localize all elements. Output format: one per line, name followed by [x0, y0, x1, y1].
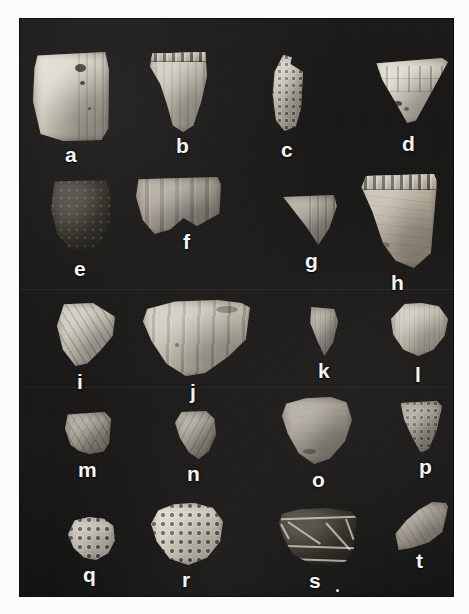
photo-plate: a b c d e [20, 19, 453, 596]
sherd-label-c: c [281, 139, 293, 160]
sherd-o [282, 397, 352, 464]
sherd-p [398, 401, 442, 453]
sherd-label-j: j [190, 381, 196, 402]
sherd-e [51, 180, 111, 252]
sherd-label-s: s [309, 570, 321, 591]
sherd-label-a: a [65, 144, 77, 165]
sherd-g [282, 195, 337, 245]
sherd-label-p: p [419, 456, 432, 477]
plate-page: a b c d e [0, 0, 469, 614]
sherd-label-n: n [187, 463, 200, 484]
sherd-l [391, 303, 448, 356]
scan-seam [20, 289, 453, 290]
sherd-label-k: k [318, 360, 330, 381]
sherd-label-i: i [77, 371, 83, 392]
sherd-h [360, 174, 437, 268]
sherd-label-f: f [183, 231, 190, 252]
sherd-a [33, 52, 109, 141]
scan-seam [20, 387, 453, 388]
sherd-label-q: q [83, 564, 96, 585]
sherd-c [270, 55, 303, 131]
sherd-label-e: e [74, 258, 86, 279]
sherd-n [175, 411, 216, 459]
sherd-d [375, 58, 448, 123]
sherd-i [57, 303, 115, 366]
sherd-label-l: l [415, 364, 421, 385]
sherd-label-g: g [305, 250, 318, 271]
sherd-s [279, 508, 357, 566]
painted-decoration [279, 508, 357, 566]
sherd-t [392, 502, 448, 550]
sherd-b [150, 52, 207, 132]
sherd-q [68, 517, 115, 560]
sherd-j [143, 300, 250, 376]
sherd-label-h: h [391, 272, 404, 293]
sherd-label-r: r [182, 569, 190, 590]
sherd-r [151, 503, 223, 565]
sherd-label-t: t [416, 550, 423, 571]
sherd-m [65, 412, 111, 454]
sherd-k [307, 307, 338, 356]
sherd-label-o: o [312, 469, 325, 490]
sherd-label-m: m [78, 459, 97, 480]
sherd-label-b: b [176, 135, 189, 156]
sherd-f [136, 177, 221, 234]
stray-dot-mark [336, 589, 339, 592]
sherd-label-d: d [402, 133, 415, 154]
